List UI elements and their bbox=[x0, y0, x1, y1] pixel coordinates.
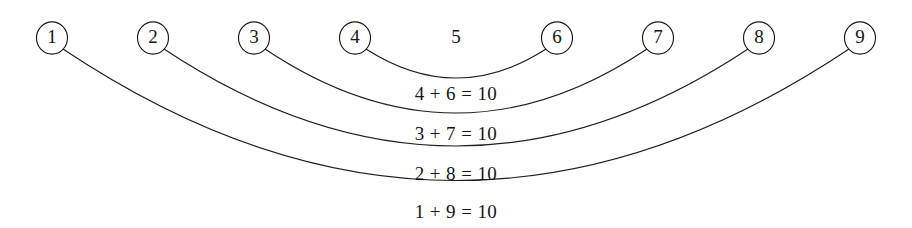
node-label-3: 3 bbox=[249, 26, 259, 47]
node-5: 5 bbox=[451, 26, 461, 47]
arc-4-6 bbox=[366, 49, 546, 78]
equation-label-4: 1 + 9 = 10 bbox=[415, 201, 497, 222]
equations-layer: 4 + 6 = 103 + 7 = 102 + 8 = 101 + 9 = 10 bbox=[415, 83, 497, 222]
node-1: 1 bbox=[37, 22, 68, 54]
node-6: 6 bbox=[542, 22, 573, 54]
arc-1-9 bbox=[63, 49, 849, 181]
equation-label-2: 3 + 7 = 10 bbox=[415, 123, 497, 144]
node-4: 4 bbox=[340, 22, 371, 54]
node-label-2: 2 bbox=[148, 26, 158, 47]
number-pairs-diagram: 123456789 4 + 6 = 103 + 7 = 102 + 8 = 10… bbox=[0, 0, 912, 228]
node-9: 9 bbox=[845, 22, 876, 54]
node-2: 2 bbox=[138, 22, 169, 54]
node-7: 7 bbox=[643, 22, 674, 54]
node-3: 3 bbox=[239, 22, 270, 54]
node-label-9: 9 bbox=[855, 26, 865, 47]
node-8: 8 bbox=[744, 22, 775, 54]
equation-label-1: 4 + 6 = 10 bbox=[415, 83, 497, 104]
node-label-1: 1 bbox=[47, 26, 57, 47]
node-label-7: 7 bbox=[653, 26, 663, 47]
node-label-5: 5 bbox=[451, 26, 461, 47]
equation-label-3: 2 + 8 = 10 bbox=[415, 163, 497, 184]
nodes-layer: 123456789 bbox=[37, 22, 876, 54]
node-label-8: 8 bbox=[754, 26, 764, 47]
node-label-4: 4 bbox=[350, 26, 360, 47]
arcs-layer bbox=[63, 49, 849, 181]
diagram-canvas: 123456789 4 + 6 = 103 + 7 = 102 + 8 = 10… bbox=[0, 0, 912, 228]
node-label-6: 6 bbox=[552, 26, 562, 47]
